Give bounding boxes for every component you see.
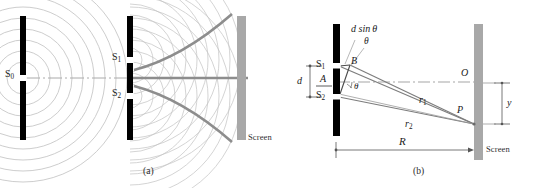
label-theta-axis: θ	[354, 82, 358, 91]
panel-b-screen	[474, 24, 483, 160]
label-r2: r2	[405, 119, 413, 131]
label-a-midpoint: A	[320, 74, 326, 84]
panel-b-aperture-s2	[332, 94, 341, 100]
ray-r1	[339, 66, 474, 124]
panel-b-aperture-s1	[332, 63, 341, 69]
label-d-separation: d	[297, 76, 302, 86]
label-theta-upper: θ	[364, 37, 369, 47]
label-screen-panel-b: Screen	[486, 145, 510, 154]
label-R-distance: R	[399, 136, 406, 147]
panel-b-barrier	[333, 24, 340, 136]
label-r1: r1	[419, 95, 427, 107]
wavefront-segment	[339, 65, 350, 97]
label-p-point: P	[457, 105, 463, 115]
point-marker-p	[472, 122, 475, 125]
label-b-point: B	[351, 56, 357, 66]
panel-b-graphics	[0, 0, 542, 188]
label-o-center: O	[461, 68, 468, 78]
ray-from-b	[350, 65, 474, 124]
label-s2-panel-b: S2	[316, 90, 325, 102]
label-y-position: y	[507, 98, 511, 108]
label-s1-panel-b: S1	[316, 59, 325, 71]
caption-panel-b: (b)	[413, 166, 424, 176]
label-d-sin-theta: d sin θ	[351, 24, 377, 34]
double-slit-figure: S0 S1 S2 Screen (a)	[0, 0, 542, 188]
